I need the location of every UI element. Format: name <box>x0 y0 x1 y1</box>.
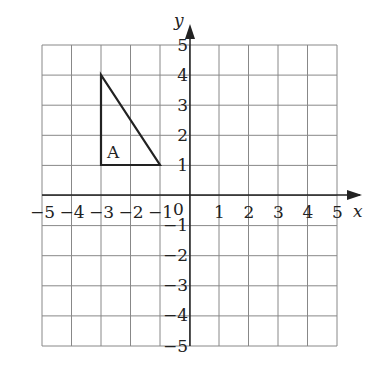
tick-label: 1 <box>214 202 225 222</box>
tick-label: −3 <box>89 202 114 222</box>
tick-label: −2 <box>163 245 188 265</box>
y-axis-label: y <box>173 10 184 30</box>
tick-label: 4 <box>177 65 188 85</box>
tick-label: 3 <box>177 95 188 115</box>
tick-label: −4 <box>59 202 84 222</box>
tick-label: 5 <box>332 202 343 222</box>
tick-label: −1 <box>163 215 188 235</box>
tick-label: −3 <box>163 275 188 295</box>
tick-label: −2 <box>118 202 143 222</box>
tick-label: −4 <box>163 305 188 325</box>
tick-label: 4 <box>303 202 314 222</box>
coordinate-plane: A y x 0 −5−4−3−2−11234554321−1−2−3−4−5 <box>0 0 383 371</box>
tick-label: 1 <box>177 155 188 175</box>
x-arrow-icon <box>347 190 362 200</box>
x-axis-label: x <box>353 201 363 221</box>
triangle-label: A <box>106 142 120 162</box>
tick-label: −5 <box>163 336 188 356</box>
tick-label: 2 <box>177 125 188 145</box>
tick-label: 3 <box>273 202 284 222</box>
tick-label: 2 <box>244 202 255 222</box>
x-axis <box>42 190 362 200</box>
tick-label: −5 <box>30 202 55 222</box>
tick-label: 5 <box>177 35 188 55</box>
